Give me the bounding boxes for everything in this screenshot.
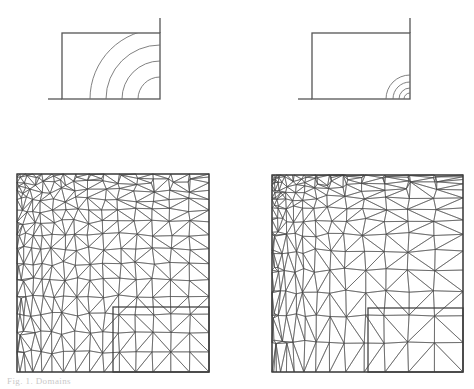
mesh-panel-coarse — [17, 174, 209, 372]
figure-canvas — [0, 0, 474, 389]
contour-panel-fine-boundary — [312, 33, 410, 99]
contour-panel-fine-contour-1 — [404, 93, 410, 99]
contour-panel-coarse — [48, 18, 160, 99]
contour-panel-coarse-contours — [90, 29, 160, 99]
contour-panel-fine-contour-3 — [393, 82, 410, 99]
contour-panel-fine-contours — [386, 75, 410, 99]
figure-caption: Fig. 1. Domains — [7, 376, 71, 388]
mesh-panel-fine — [272, 175, 463, 372]
contour-panel-coarse-contour-1 — [138, 77, 160, 99]
contour-panel-fine — [298, 18, 410, 99]
contour-panel-coarse-contour-2 — [122, 61, 160, 99]
contour-panel-coarse-boundary — [62, 33, 160, 99]
contour-panel-coarse-contour-4 — [90, 29, 160, 99]
